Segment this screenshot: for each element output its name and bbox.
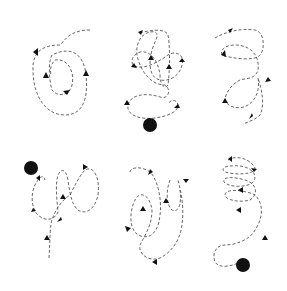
arrow-icon xyxy=(183,179,189,183)
arrow-icon xyxy=(60,194,66,199)
arrow-icon xyxy=(236,207,241,213)
arrow-icon xyxy=(166,64,172,69)
arrow-icon xyxy=(249,113,253,119)
panel-bottom-right xyxy=(214,156,268,272)
arrow-icon xyxy=(163,198,169,203)
arrow-icon xyxy=(131,63,137,68)
arrow-icon xyxy=(43,72,49,78)
arrow-icon xyxy=(228,156,232,162)
arrow-icon xyxy=(265,77,271,82)
ball-icon xyxy=(24,161,38,175)
arrow-icon xyxy=(63,90,70,95)
arrow-icon xyxy=(140,206,146,211)
ball-icon xyxy=(236,258,250,272)
trajectory-diagram xyxy=(0,0,287,291)
panel-top-middle xyxy=(124,30,185,132)
arrow-icon xyxy=(125,226,131,232)
arrow-icon xyxy=(238,187,243,193)
arrow-icon xyxy=(262,235,268,240)
arrow-icon xyxy=(222,98,228,103)
ball-icon xyxy=(143,118,157,132)
arrow-icon xyxy=(179,58,185,62)
arrow-icon xyxy=(152,259,157,265)
arrow-icon xyxy=(174,104,180,108)
panel-top-left xyxy=(33,30,90,115)
panel-top-right xyxy=(215,28,271,124)
arrow-icon xyxy=(83,70,89,76)
arrow-icon xyxy=(31,208,36,212)
arrow-icon xyxy=(33,48,38,56)
arrow-icon xyxy=(57,217,62,222)
arrow-icon xyxy=(251,168,257,172)
arrow-icon xyxy=(44,235,50,240)
panel-bottom-left xyxy=(24,161,98,258)
panel-bottom-middle xyxy=(125,168,189,265)
